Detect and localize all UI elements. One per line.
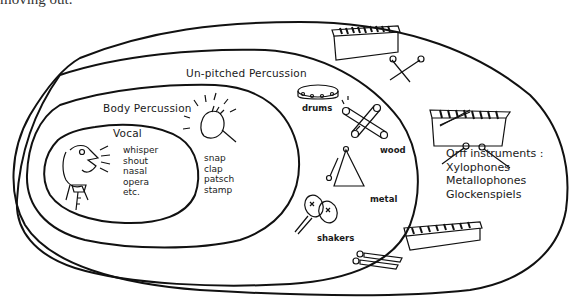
body-percussion-label: Body Percussion <box>103 103 192 114</box>
orff-item: Metallophones <box>446 174 544 188</box>
vocal-items-list: whisper shout nasal opera etc. <box>123 145 158 198</box>
body-items-list: snap clap patsch stamp <box>204 153 234 195</box>
orff-item: Xylophones <box>446 161 544 175</box>
clapping-hands-icon <box>183 93 236 142</box>
orff-instruments-list: Orff instruments : Xylophones Metallopho… <box>446 147 544 201</box>
vocal-label: Vocal <box>113 128 142 139</box>
vocal-item: shout <box>123 156 158 167</box>
body-item: snap <box>204 153 234 164</box>
body-item: patsch <box>204 174 234 185</box>
vocal-item: whisper <box>123 145 158 156</box>
wood-label: wood <box>380 146 406 155</box>
mallets-top-icon <box>390 56 424 82</box>
drums-label: drums <box>302 104 332 113</box>
claves-icon <box>342 96 388 139</box>
vocal-region-outline <box>44 125 198 223</box>
shakers-label: shakers <box>317 234 354 243</box>
mallets-bottom-icon <box>353 251 402 269</box>
orff-item: Glockenspiels <box>446 188 544 202</box>
xylophone-bottom-icon <box>404 222 482 250</box>
vocal-item: etc. <box>123 187 158 198</box>
orff-label: Orff instruments : <box>446 147 544 161</box>
body-item: stamp <box>204 185 234 196</box>
vocal-item: opera <box>123 177 158 188</box>
body-item: clap <box>204 164 234 175</box>
xylophone-right-icon <box>430 110 510 146</box>
unpitched-percussion-label: Un-pitched Percussion <box>186 68 307 79</box>
tambourine-icon <box>298 85 338 99</box>
maracas-icon <box>295 193 340 234</box>
singing-person-icon <box>63 146 110 211</box>
triangle-icon <box>327 147 365 187</box>
metal-label: metal <box>370 195 397 204</box>
vocal-item: nasal <box>123 166 158 177</box>
xylophone-top-icon <box>332 26 400 60</box>
